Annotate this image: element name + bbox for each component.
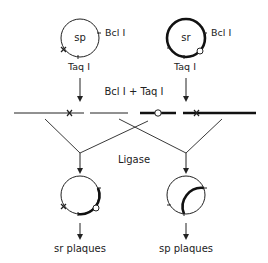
bcl-site-label: Bcl I [211, 27, 231, 38]
taq-site-label: Taq I [67, 61, 90, 72]
recombinant-plasmid-right [167, 176, 207, 216]
arrowhead-icon [183, 234, 189, 240]
mutation-circle-icon [197, 48, 203, 54]
recombinant-plasmid-left [61, 176, 101, 216]
arrowhead-icon [183, 96, 189, 102]
ligation-line [45, 119, 80, 153]
sr-plasmid: sr Bcl I Taq I [167, 19, 231, 72]
sp-plasmid: sp Bcl I Taq I [61, 19, 125, 72]
arrowhead-icon [77, 168, 83, 174]
sr-plaques-label: sr plaques [54, 243, 106, 254]
recombination-diagram: sp Bcl I Taq I sr Bcl I Taq I Bcl I + Ta… [0, 0, 268, 263]
mutation-circle-icon [155, 110, 161, 116]
arrowhead-icon [77, 96, 83, 102]
ligation-line [186, 119, 222, 153]
ligation-line [80, 121, 148, 153]
ligation-line [119, 119, 186, 153]
taq-site-label: Taq I [173, 61, 196, 72]
bcl-site-label: Bcl I [105, 27, 125, 38]
sp-plaques-label: sp plaques [159, 243, 213, 254]
arrowhead-icon [183, 168, 189, 174]
mutation-circle-icon [93, 205, 99, 211]
thick-arc [183, 188, 204, 214]
sr-plasmid-label: sr [181, 32, 191, 43]
ligase-label: Ligase [118, 154, 150, 165]
sp-plasmid-label: sp [74, 32, 86, 43]
digest-label: Bcl I + Taq I [104, 86, 163, 97]
fragments [14, 110, 256, 116]
arrowhead-icon [77, 234, 83, 240]
